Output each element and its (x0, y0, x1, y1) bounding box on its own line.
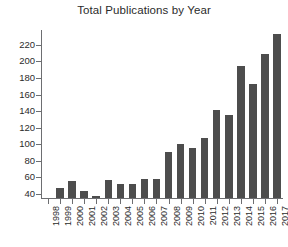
x-axis-tick-label: 2006 (148, 206, 157, 226)
bar (201, 138, 208, 198)
y-axis-tick-label: 160 (0, 90, 35, 99)
x-axis-tick-label: 2001 (88, 206, 97, 226)
x-axis-tick-label: 2016 (269, 206, 278, 226)
y-axis-tick-label: 80 (0, 156, 35, 165)
x-axis-tick-label: 2003 (112, 206, 121, 226)
x-axis-tick (205, 199, 206, 204)
x-axis-tick (96, 199, 97, 204)
x-axis-tick (108, 199, 109, 204)
x-axis-tick-label: 2008 (173, 206, 182, 226)
x-axis-tick (181, 199, 182, 204)
x-axis-tick-label: 2005 (136, 206, 145, 226)
bar (177, 144, 184, 198)
x-axis-tick-label: 1998 (52, 206, 61, 226)
y-axis-tick-label: 220 (0, 40, 35, 49)
y-axis-tick-label: 180 (0, 73, 35, 82)
x-axis-tick (169, 199, 170, 204)
y-axis-tick-label: 40 (0, 189, 35, 198)
x-axis-tick-label: 2017 (281, 206, 288, 226)
x-axis-tick (84, 199, 85, 204)
x-axis-tick (241, 199, 242, 204)
bar (105, 180, 112, 198)
bar (92, 196, 99, 198)
x-axis-tick-label: 2004 (124, 206, 133, 226)
x-axis-tick-label: 2010 (197, 206, 206, 226)
x-axis-tick (265, 199, 266, 204)
bar (273, 34, 280, 198)
x-axis-tick-label: 2000 (76, 206, 85, 226)
x-axis-tick (193, 199, 194, 204)
x-axis-line (41, 198, 283, 199)
bar (117, 184, 124, 198)
x-axis-tick-label: 2015 (257, 206, 266, 226)
bar (68, 181, 75, 198)
x-axis-tick-label: 2011 (209, 206, 218, 225)
x-axis-tick (60, 199, 61, 204)
x-axis-tick (253, 199, 254, 204)
bar (213, 110, 220, 198)
x-axis-tick-label: 2014 (245, 206, 254, 226)
bar (153, 179, 160, 198)
y-axis-tick-label: 200 (0, 56, 35, 65)
x-axis-tick-label: 2002 (100, 206, 109, 226)
x-axis-tick (132, 199, 133, 204)
bar (261, 54, 268, 198)
x-axis-tick (277, 199, 278, 204)
x-axis-tick-label: 2009 (185, 206, 194, 226)
bar (225, 115, 232, 198)
bar (141, 179, 148, 198)
x-axis-tick (48, 199, 49, 204)
bar (237, 66, 244, 198)
x-axis-tick-label: 2012 (221, 206, 230, 226)
y-axis-tick-label: 140 (0, 106, 35, 115)
x-axis-tick-label: 2007 (160, 206, 169, 226)
y-axis-tick-label: 120 (0, 123, 35, 132)
x-axis-tick (72, 199, 73, 204)
bar (189, 148, 196, 198)
x-axis-tick (144, 199, 145, 204)
bar (129, 184, 136, 198)
bar-series (42, 30, 283, 198)
bar (80, 191, 87, 198)
bar (165, 152, 172, 198)
x-axis-tick-label: 1999 (64, 206, 73, 226)
x-axis-tick (217, 199, 218, 204)
chart-title: Total Publications by Year (0, 4, 288, 16)
bar (56, 188, 63, 198)
x-axis-tick-label: 2013 (233, 206, 242, 226)
x-axis-tick (229, 199, 230, 204)
chart-container: Total Publications by Year 4060801001201… (0, 0, 288, 247)
x-axis-tick (156, 199, 157, 204)
y-axis-tick-label: 100 (0, 139, 35, 148)
bar (249, 84, 256, 198)
y-axis-tick-label: 60 (0, 172, 35, 181)
x-axis-tick (120, 199, 121, 204)
